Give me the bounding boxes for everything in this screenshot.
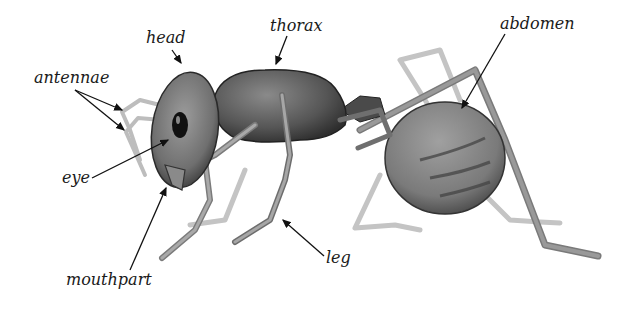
eye-shape xyxy=(172,112,188,138)
label-antennae: antennae xyxy=(34,70,109,86)
thorax-shape xyxy=(214,70,346,142)
label-leg: leg xyxy=(326,250,351,266)
label-thorax: thorax xyxy=(270,18,323,34)
label-eye: eye xyxy=(62,170,90,186)
abdomen-shape xyxy=(385,102,505,214)
label-head: head xyxy=(146,30,186,46)
label-mouthpart: mouthpart xyxy=(66,272,152,288)
ant-illustration xyxy=(0,0,629,313)
label-abdomen: abdomen xyxy=(500,16,575,32)
ant-anatomy-diagram: head thorax abdomen antennae eye mouthpa… xyxy=(0,0,629,313)
